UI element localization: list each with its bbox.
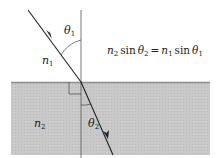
n1-label: n1 [42,54,54,68]
snell-equation: n2sinθ2=n1sinθ1 [107,44,203,58]
theta1-arc [61,40,81,55]
incident-ray [28,10,81,82]
incident-arrow-icon [46,29,52,39]
refraction-diagram: θ1 n1 n2 θ2 n2sinθ2=n1sinθ1 [0,0,219,158]
theta1-label: θ1 [64,24,75,38]
